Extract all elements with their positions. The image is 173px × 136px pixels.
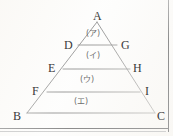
region-label-e: (エ) bbox=[74, 98, 88, 106]
page-border-bottom bbox=[0, 128, 169, 129]
region-label-a: (ア) bbox=[86, 30, 100, 38]
region-label-u: (ウ) bbox=[80, 76, 94, 84]
triangle-diagram bbox=[0, 0, 173, 136]
vertex-label-C: C bbox=[157, 110, 165, 122]
vertex-label-A: A bbox=[93, 10, 102, 22]
vertex-label-D: D bbox=[64, 39, 73, 51]
vertex-label-I: I bbox=[145, 85, 149, 97]
page-border-bottom-secondary bbox=[0, 131, 166, 132]
vertex-label-E: E bbox=[48, 62, 56, 74]
side-AC bbox=[97, 22, 155, 113]
figure-container: A D G E H F I B C (ア) (イ) (ウ) (エ) bbox=[0, 0, 173, 136]
vertex-label-H: H bbox=[133, 62, 142, 74]
vertex-label-B: B bbox=[13, 110, 21, 122]
page-border-right bbox=[168, 0, 169, 132]
region-label-i: (イ) bbox=[86, 52, 100, 60]
vertex-label-F: F bbox=[32, 85, 39, 97]
vertex-label-G: G bbox=[121, 39, 130, 51]
